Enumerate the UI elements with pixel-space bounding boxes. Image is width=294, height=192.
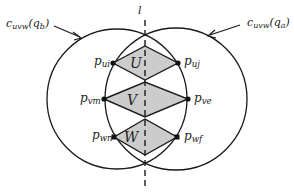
point-ve xyxy=(185,96,190,101)
point-vm xyxy=(101,96,106,101)
region-label-w: W xyxy=(124,130,138,144)
region-v xyxy=(104,82,188,117)
point-ui xyxy=(110,60,115,65)
diagram-canvas: l cuvw(qb) cuvw(qa) U V W pui puj pvm pv… xyxy=(0,0,294,192)
arrow-left xyxy=(54,26,80,37)
point-label-wn: pwn xyxy=(92,129,113,143)
region-label-u: U xyxy=(130,56,142,70)
point-label-vm: pvm xyxy=(80,92,101,106)
point-label-ve: pve xyxy=(194,92,212,106)
circle-label-right: cuvw(qa) xyxy=(247,17,290,30)
region-label-v: V xyxy=(127,93,137,107)
point-label-ui: pui xyxy=(94,55,110,69)
line-label-l: l xyxy=(138,5,142,16)
circle-label-left: cuvw(qb) xyxy=(6,18,49,31)
point-label-uj: puj xyxy=(184,55,200,69)
point-uj xyxy=(175,60,180,65)
point-label-wf: pwf xyxy=(184,130,202,144)
point-wf xyxy=(175,135,180,140)
